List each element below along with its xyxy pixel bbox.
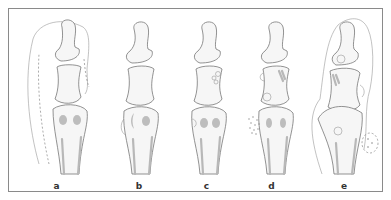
toe-bone-illustration-c — [174, 9, 239, 179]
panel-label-d: d — [239, 181, 304, 191]
panel-d: d — [239, 9, 304, 193]
panel-label-a: a — [9, 181, 104, 191]
panel-label-e: e — [304, 181, 384, 191]
panel-label-c: c — [174, 181, 239, 191]
panel-b: b — [104, 9, 174, 193]
panel-c: c — [174, 9, 239, 193]
panel-a: a — [9, 9, 104, 193]
toe-bone-illustration-e — [304, 9, 384, 179]
toe-bone-illustration-a — [9, 9, 104, 179]
toe-bone-illustration-d — [239, 9, 304, 179]
panel-e: e — [304, 9, 384, 193]
toe-bone-illustration-b — [104, 9, 174, 179]
tophus-stipple — [248, 116, 259, 134]
figure-frame: a b c — [8, 8, 383, 192]
panel-label-b: b — [104, 181, 174, 191]
